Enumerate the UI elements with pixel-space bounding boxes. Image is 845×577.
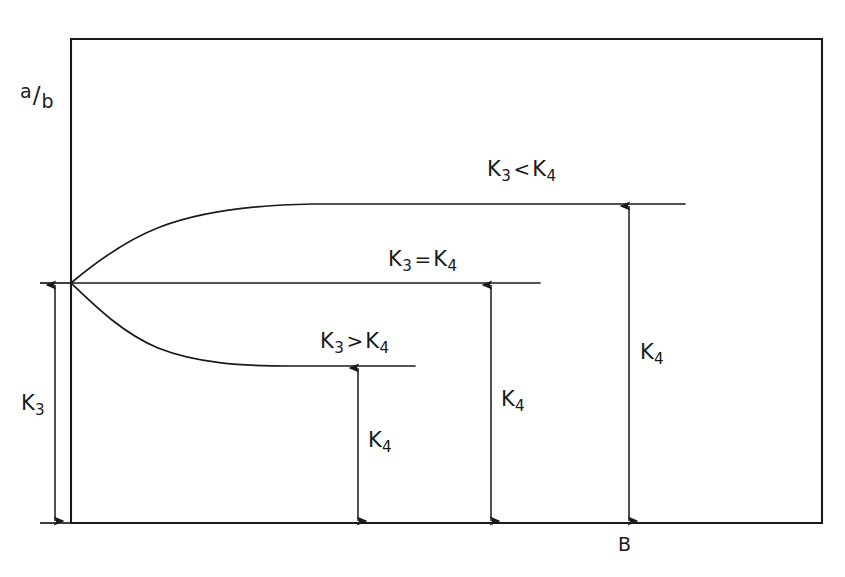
figure-container: a/b B K3<K4 K3=K4 K3>K4 K3 K4 K4 K4 (0, 0, 845, 577)
y-axis-label-slash: / (32, 84, 42, 107)
measure-label-k4-middle-sub: 4 (515, 397, 525, 415)
measure-label-k4-lower-base: K (368, 428, 382, 452)
curve-k3-less-k4 (71, 204, 685, 283)
curve-label-k3-less-k4-base: K (487, 157, 501, 181)
curve-label-k3-equal-k4: K3=K4 (388, 249, 458, 274)
measure-label-k4-lower-sub: 4 (382, 438, 392, 456)
curve-label-k3-equal-k4-relation: = (412, 247, 433, 271)
measure-label-k4-upper-sub: 4 (654, 350, 664, 368)
y-axis-label-numerator: a (20, 80, 32, 102)
axis-box (71, 39, 822, 523)
measure-label-k4-lower: K4 (368, 430, 392, 455)
curve-label-k3-less-k4-sub2: 4 (546, 167, 556, 185)
measure-label-k4-upper: K4 (640, 342, 664, 367)
measure-label-k4-upper-base: K (640, 340, 654, 364)
measure-label-k3-base: K (21, 391, 35, 415)
measure-label-k4-middle-base: K (501, 387, 515, 411)
curve-label-k3-equal-k4-sub2: 4 (447, 257, 457, 275)
measure-label-k4-middle: K4 (501, 389, 525, 414)
figure-svg (0, 0, 845, 577)
measure-label-k3: K3 (21, 393, 45, 418)
curve-label-k3-less-k4-relation: < (511, 157, 532, 181)
measure-label-k3-sub: 3 (35, 401, 45, 419)
curve-label-k3-greater-k4-sub2: 4 (379, 339, 389, 357)
curve-label-k3-greater-k4-base: K (320, 329, 334, 353)
y-axis-label-denominator: b (41, 90, 53, 112)
curve-label-k3-equal-k4-base2: K (433, 247, 447, 271)
curve-label-k3-greater-k4-base2: K (365, 329, 379, 353)
curve-label-k3-greater-k4-sub1: 3 (334, 339, 344, 357)
curve-label-k3-less-k4: K3<K4 (487, 159, 557, 184)
curve-label-k3-greater-k4-relation: > (344, 329, 365, 353)
curve-label-k3-less-k4-base2: K (532, 157, 546, 181)
curve-label-k3-greater-k4: K3>K4 (320, 331, 390, 356)
curve-label-k3-equal-k4-sub1: 3 (402, 257, 412, 275)
x-axis-label: B (618, 535, 631, 554)
y-axis-label: a/b (20, 84, 53, 107)
curve-label-k3-equal-k4-base: K (388, 247, 402, 271)
axis-frame (71, 39, 822, 523)
curve-label-k3-less-k4-sub1: 3 (501, 167, 511, 185)
